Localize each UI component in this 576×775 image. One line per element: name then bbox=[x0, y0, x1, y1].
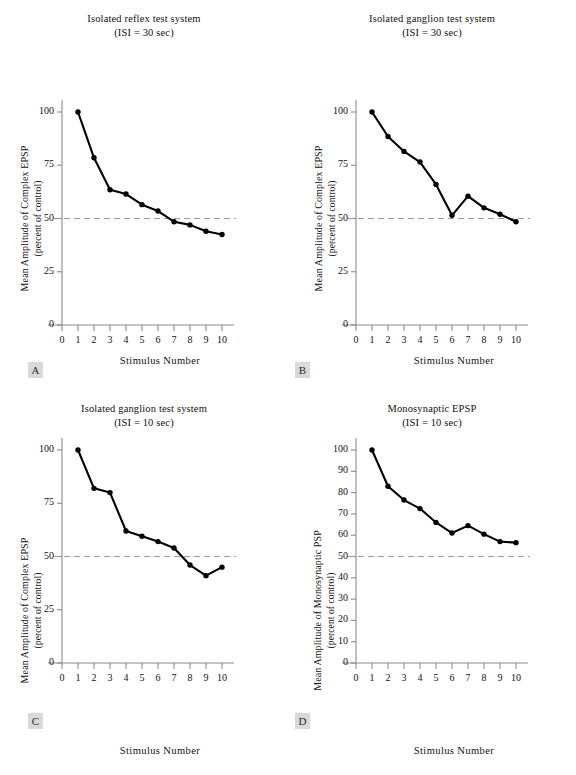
panel-c-ytick-100: 100 bbox=[12, 443, 54, 454]
panel-d-ytick-100: 100 bbox=[306, 443, 348, 454]
panel-tag-c: C bbox=[28, 713, 43, 729]
panel-c-ytick-0: 0 bbox=[12, 656, 54, 667]
panel-b-ytick-0: 0 bbox=[306, 318, 348, 329]
panel-tag-a: A bbox=[28, 362, 43, 378]
panel-d-ytick-20: 20 bbox=[306, 613, 348, 624]
panel-d: Monosynaptic EPSP (ISI = 10 sec) Mean Am… bbox=[288, 388, 576, 775]
panel-a-ytick-25: 25 bbox=[12, 265, 54, 276]
panel-b-ytick-100: 100 bbox=[306, 105, 348, 116]
panel-b-ytick-25: 25 bbox=[306, 265, 348, 276]
panel-c-ytick-75: 75 bbox=[12, 496, 54, 507]
panel-c-ytick-25: 25 bbox=[12, 603, 54, 614]
panel-b-plot: Mean Amplitude of Complex EPSP (percent … bbox=[288, 0, 576, 387]
panel-c-xtick-10: 10 bbox=[210, 672, 234, 683]
panel-d-ytick-90: 90 bbox=[306, 464, 348, 475]
panel-tag-d: D bbox=[295, 713, 310, 729]
panel-b-ytick-75: 75 bbox=[306, 158, 348, 169]
panel-c: Isolated ganglion test system (ISI = 10 … bbox=[0, 388, 288, 775]
panel-d-x-axis-label: Stimulus Number bbox=[354, 745, 554, 756]
figure-four-panel-epsp: Isolated reflex test system (ISI = 30 se… bbox=[0, 0, 576, 775]
panel-a-x-axis-label: Stimulus Number bbox=[60, 355, 260, 366]
panel-d-ytick-70: 70 bbox=[306, 507, 348, 518]
panel-d-ytick-60: 60 bbox=[306, 528, 348, 539]
panel-d-ytick-40: 40 bbox=[306, 571, 348, 582]
panel-d-plot: Mean Amplitude of Monosynaptic PSP (perc… bbox=[288, 388, 576, 775]
panel-a-ytick-75: 75 bbox=[12, 158, 54, 169]
panel-b: Isolated ganglion test system (ISI = 30 … bbox=[288, 0, 576, 387]
panel-c-plot: Mean Amplitude of Complex EPSP (percent … bbox=[0, 388, 288, 775]
panel-d-ytick-50: 50 bbox=[306, 550, 348, 561]
panel-d-xtick-10: 10 bbox=[504, 672, 528, 683]
panel-tag-b: B bbox=[295, 362, 310, 378]
panel-b-xtick-10: 10 bbox=[504, 334, 528, 345]
panel-d-y-axis-label-line2: (percent of control) bbox=[324, 511, 337, 711]
panel-a: Isolated reflex test system (ISI = 30 se… bbox=[0, 0, 288, 387]
panel-c-x-axis-label: Stimulus Number bbox=[60, 745, 260, 756]
panel-d-ytick-0: 0 bbox=[306, 656, 348, 667]
panel-a-ytick-100: 100 bbox=[12, 105, 54, 116]
panel-d-ytick-80: 80 bbox=[306, 486, 348, 497]
panel-d-ytick-10: 10 bbox=[306, 635, 348, 646]
panel-a-xtick-10: 10 bbox=[210, 334, 234, 345]
panel-b-x-axis-label: Stimulus Number bbox=[354, 355, 554, 366]
panel-a-plot: Mean Amplitude of Complex EPSP (percent … bbox=[0, 0, 288, 387]
panel-d-ytick-30: 30 bbox=[306, 592, 348, 603]
panel-d-y-axis-label: Mean Amplitude of Monosynaptic PSP (perc… bbox=[312, 511, 337, 711]
panel-b-ytick-50: 50 bbox=[306, 212, 348, 223]
panel-a-ytick-0: 0 bbox=[12, 318, 54, 329]
panel-c-ytick-50: 50 bbox=[12, 550, 54, 561]
panel-a-ytick-50: 50 bbox=[12, 212, 54, 223]
